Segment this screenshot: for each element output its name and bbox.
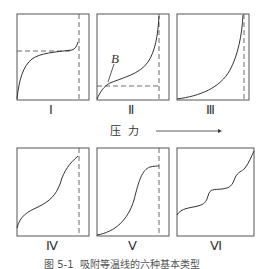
panel-label: Ⅴ <box>128 238 137 253</box>
pressure-axis: 压 力 <box>110 125 222 138</box>
isotherm-curve <box>177 15 243 99</box>
isotherm-curve <box>17 156 78 228</box>
panel-frame <box>97 148 169 236</box>
point-b-leader <box>108 64 114 82</box>
panel-label: Ⅰ <box>49 102 53 117</box>
isotherm-curve <box>97 166 159 235</box>
panel-I: Ⅰ <box>17 14 89 117</box>
panel-II: B Ⅱ <box>97 14 169 117</box>
figure-caption: 图 5-1 吸附等温线的六种基本类型 <box>44 258 200 269</box>
arrowhead-icon <box>218 129 222 133</box>
panel-V: Ⅴ <box>97 148 169 253</box>
panel-label: Ⅵ <box>210 238 222 253</box>
panel-III: Ⅲ <box>177 14 249 117</box>
panel-label: Ⅲ <box>206 102 215 117</box>
panel-label: Ⅳ <box>46 238 58 253</box>
panel-frame <box>17 148 89 236</box>
panel-IV: Ⅳ <box>17 148 89 253</box>
panel-VI: Ⅵ <box>177 148 254 253</box>
point-b-label: B <box>111 51 119 66</box>
pressure-label: 压 力 <box>110 125 139 138</box>
panel-label: Ⅱ <box>128 102 134 117</box>
isotherm-curve <box>97 16 159 99</box>
isotherm-curve <box>177 151 254 215</box>
panel-frame <box>177 148 254 236</box>
panel-frame <box>17 14 89 100</box>
isotherm-curve <box>17 42 78 99</box>
isotherm-figure: Ⅰ B Ⅱ Ⅲ 压 力 Ⅳ Ⅴ Ⅵ <box>0 0 267 269</box>
